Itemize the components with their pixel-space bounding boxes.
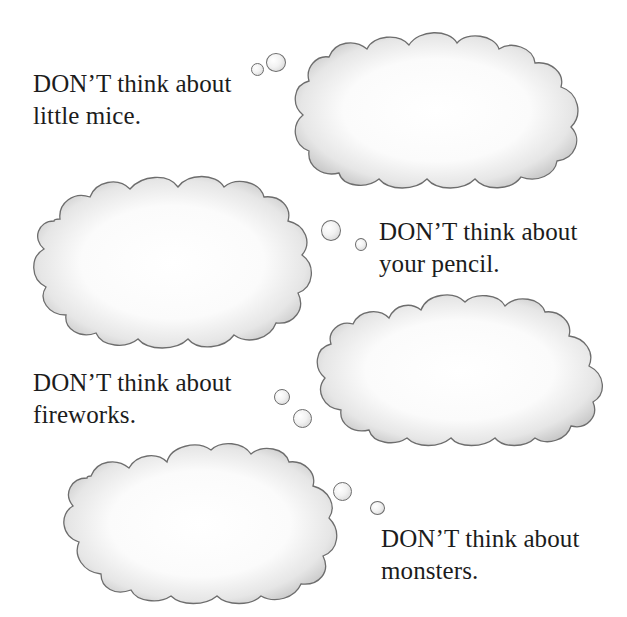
- thought-bubble-small: [355, 238, 367, 251]
- picture-book-page: DON’T think about little mice. DON’T thi…: [0, 0, 627, 617]
- caption-line: DON’T think about: [379, 216, 577, 248]
- caption-line: little mice.: [33, 100, 231, 132]
- cloud-shape-icon: [57, 438, 339, 604]
- caption-line: fireworks.: [33, 399, 231, 431]
- thought-cloud-monsters: [57, 438, 339, 604]
- thought-cloud-your-pencil: [30, 169, 320, 351]
- thought-bubble-small: [274, 389, 290, 405]
- caption-line: monsters.: [381, 555, 579, 587]
- cloud-shape-icon: [289, 29, 585, 191]
- thought-bubble-large: [266, 53, 286, 72]
- thought-bubble-small: [370, 501, 385, 515]
- thought-bubble-large: [293, 409, 312, 428]
- cloud-shape-icon: [30, 169, 320, 351]
- caption-line: DON’T think about: [381, 523, 579, 555]
- thought-cloud-fireworks: [313, 290, 609, 448]
- thought-bubble-small: [251, 63, 264, 76]
- cloud-shape-icon: [313, 290, 609, 448]
- caption-little-mice: DON’T think about little mice.: [33, 68, 231, 132]
- caption-your-pencil: DON’T think about your pencil.: [379, 216, 577, 280]
- caption-line: DON’T think about: [33, 367, 231, 399]
- caption-line: your pencil.: [379, 248, 577, 280]
- caption-monsters: DON’T think about monsters.: [381, 523, 579, 587]
- caption-line: DON’T think about: [33, 68, 231, 100]
- thought-bubble-large: [333, 482, 352, 501]
- caption-fireworks: DON’T think about fireworks.: [33, 367, 231, 431]
- thought-cloud-little-mice: [289, 29, 585, 191]
- thought-bubble-large: [321, 220, 341, 241]
